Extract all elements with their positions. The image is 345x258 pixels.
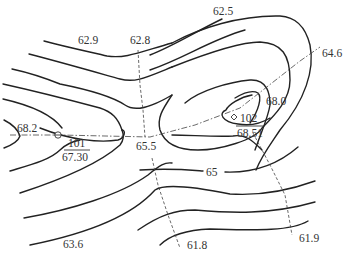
label-61-8: 61.8 xyxy=(187,239,207,251)
label-62-5: 62.5 xyxy=(213,5,233,17)
label-68-2: 68.2 xyxy=(17,122,37,134)
contour-line-62-5 xyxy=(150,19,222,55)
contour-line-65 xyxy=(140,169,203,171)
contour-line-right-hill-outer xyxy=(172,16,311,170)
profile-line-top xyxy=(138,50,145,137)
label-65-5: 65.5 xyxy=(136,140,156,152)
label-62-9: 62.9 xyxy=(78,34,98,46)
benchmark-102-id: 102 xyxy=(240,112,258,124)
benchmark-102: 102 68.51 xyxy=(231,112,263,139)
contour-line-upper-2 xyxy=(29,54,172,80)
benchmark-101-elevation: 67.30 xyxy=(62,151,88,163)
contour-line-upper-r2 xyxy=(150,30,245,70)
ridge-line xyxy=(10,47,320,137)
contour-line-upper-3 xyxy=(12,69,172,108)
label-64-6: 64.6 xyxy=(322,47,342,59)
contour-line-lower-4 xyxy=(160,221,308,245)
label-68-0: 68.0 xyxy=(266,95,286,107)
benchmark-101-id: 101 xyxy=(68,137,86,149)
contour-line-right-hill-3 xyxy=(185,80,270,150)
label-65: 65 xyxy=(206,166,218,178)
contour-line-65-left xyxy=(24,163,172,218)
benchmark-102-marker-icon xyxy=(231,114,237,120)
label-62-8: 62.8 xyxy=(130,34,150,46)
profile-line-bottom-right xyxy=(253,133,292,235)
contour-map: 101 67.30 102 68.51 62.5 62.9 62.8 64.6 … xyxy=(0,0,345,258)
benchmark-102-elevation: 68.51 xyxy=(237,127,263,139)
label-61-9: 61.9 xyxy=(299,232,319,244)
label-63-6: 63.6 xyxy=(63,238,83,250)
benchmark-101: 101 67.30 xyxy=(54,132,90,163)
